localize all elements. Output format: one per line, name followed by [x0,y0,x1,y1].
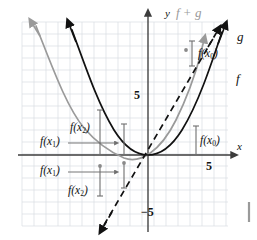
y-axis-tick-5: 5 [134,89,140,101]
annotation-fx0-upper: f(x0) [198,48,218,60]
curve-label-f-plus-g: f + g [176,6,201,19]
annotation-fx2-upper-head: f(x [70,121,82,133]
annotation-fx1-upper: f(x1) [40,136,60,148]
bracket-fx1 [97,110,103,155]
x-axis-label: x [237,141,242,152]
annotation-fx2-lower: f(x2) [68,185,88,197]
annotation-fx1-upper-tail: ) [56,135,60,147]
y-axis-tick-neg5: −5 [141,206,154,218]
curve-g [104,37,214,225]
annotation-fx0-upper-head: f(x [198,47,210,59]
bracket-fx2 [121,124,127,155]
x-axis-tick-5: 5 [206,160,212,172]
annotation-fx1-upper-head: f(x [40,135,52,147]
annotation-fx0-lower-head: f(x [200,134,212,146]
annotation-fx0-lower: f(x0) [200,135,220,147]
curve-g-arrow-up [208,30,218,47]
point-marker-fx2 [122,161,126,165]
annotation-fx1-lower-tail: ) [56,164,60,176]
point-marker-fg-upper [184,48,188,52]
curve-label-g: g [237,30,244,43]
annotation-fx2-lower-tail: ) [84,184,88,196]
annotation-fx2-upper-tail: ) [86,121,90,133]
curve-f-arrow-right [218,26,225,44]
point-marker-fx1 [98,164,102,168]
annotation-fx1-lower: f(x1) [40,165,60,177]
function-graph-figure: y x 5 5 −5 f + g g f f(x0) f(x0) f(x2) f… [0,0,257,240]
annotation-fx2-lower-head: f(x [68,184,80,196]
annotation-fx0-upper-tail: ) [214,47,218,59]
annotation-fx1-lower-head: f(x [40,164,52,176]
curve-label-f: f [236,72,240,85]
y-axis-label: y [165,8,170,19]
annotation-fx2-upper: f(x2) [70,122,90,134]
bracket-fx1-lower [97,166,103,196]
annotation-fx0-lower-tail: ) [216,134,220,146]
bracket-fx2-lower [121,163,127,188]
bracket-fx0-lower [193,126,199,155]
graph-canvas [0,0,257,240]
